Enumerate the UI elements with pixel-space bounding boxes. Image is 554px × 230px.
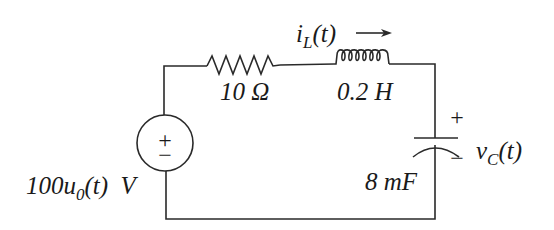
source-label-main: 100u — [26, 172, 76, 199]
circuit-svg: + − 100u0(t) V 10 Ω 0.2 H iL(t) + − vC(t… — [0, 0, 554, 230]
wire-top-right — [389, 64, 435, 138]
inductor-symbol — [334, 50, 389, 64]
source-minus-sign: − — [158, 142, 172, 168]
current-label-main: i — [296, 20, 303, 47]
capacitor-minus-sign: − — [450, 145, 464, 171]
wire-top-left — [164, 66, 207, 115]
capacitor-label: 8 mF — [365, 168, 418, 195]
current-label-tail: (t) — [312, 20, 336, 48]
voltage-label-sub: C — [487, 150, 499, 169]
capacitor-voltage-label: vC(t) — [476, 137, 522, 169]
source-label: 100u0(t) V — [26, 172, 139, 204]
wire-resistor-inductor — [280, 64, 334, 65]
current-label-sub: L — [302, 33, 312, 52]
voltage-label-tail: (t) — [498, 137, 522, 165]
resistor-label: 10 Ω — [220, 78, 269, 105]
inductor-label: 0.2 H — [337, 78, 395, 105]
current-arrow-icon — [356, 29, 392, 37]
resistor-symbol — [207, 56, 280, 74]
circuit-diagram: + − 100u0(t) V 10 Ω 0.2 H iL(t) + − vC(t… — [0, 0, 554, 230]
inductor-current-label: iL(t) — [296, 20, 336, 52]
source-label-tail: (t) V — [85, 172, 139, 200]
capacitor-plus-sign: + — [450, 104, 464, 130]
